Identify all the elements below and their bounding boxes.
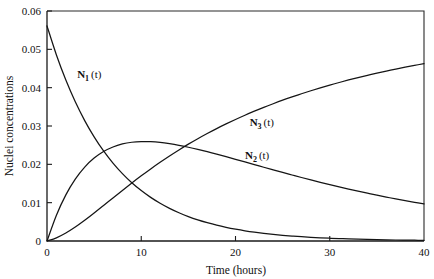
y-tick-label: 0.06	[22, 5, 42, 17]
x-axis-tick-labels: 010203040	[44, 246, 430, 258]
y-tick-label: 0.02	[22, 158, 41, 170]
y-tick-label: 0	[36, 235, 42, 247]
y-tick-label: 0.03	[22, 120, 42, 132]
x-axis-title: Time (hours)	[206, 264, 266, 277]
plot-frame	[47, 11, 424, 241]
data-curves	[47, 26, 424, 241]
y-axis-title: Nuclei concentrations	[3, 75, 15, 176]
x-tick-label: 30	[324, 246, 336, 258]
x-tick-label: 40	[419, 246, 431, 258]
series-label-n1: N1(t)	[77, 68, 102, 83]
y-tick-label: 0.05	[22, 43, 42, 55]
series-label-n2: N2(t)	[245, 149, 270, 164]
curve-n3-t	[47, 64, 424, 241]
plot-frame-border	[47, 11, 424, 241]
y-tick-label: 0.01	[22, 197, 41, 209]
y-tick-label: 0.04	[22, 82, 42, 94]
chart-figure: 00.010.020.030.040.050.06 010203040 N1(t…	[0, 0, 434, 279]
x-tick-label: 20	[230, 246, 242, 258]
y-axis-tick-labels: 00.010.020.030.040.050.06	[22, 5, 42, 247]
x-tick-label: 10	[136, 246, 148, 258]
curve-n2-t	[47, 142, 424, 241]
series-label-n3: N3(t)	[250, 116, 275, 131]
curve-n1-t	[47, 26, 424, 240]
x-tick-label: 0	[44, 246, 50, 258]
nuclei-concentrations-chart: 00.010.020.030.040.050.06 010203040 N1(t…	[0, 0, 434, 279]
